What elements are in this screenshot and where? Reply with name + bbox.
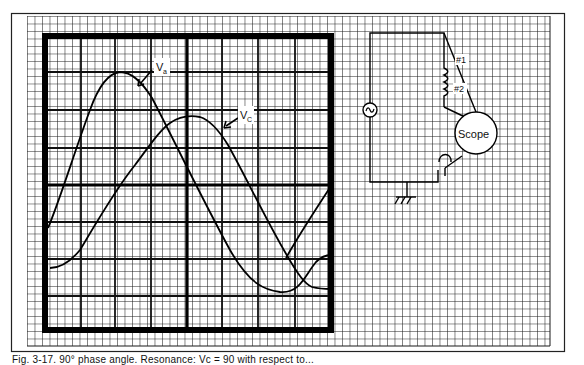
lead-1-label: #1 — [456, 55, 466, 65]
lead-2-label: #2 — [454, 84, 464, 94]
svg-text:a: a — [163, 68, 167, 75]
scope-label: Scope — [458, 128, 489, 140]
svg-text:C: C — [247, 116, 252, 123]
figure-caption: Fig. 3-17. 90° phase angle. Resonance: V… — [12, 354, 314, 365]
